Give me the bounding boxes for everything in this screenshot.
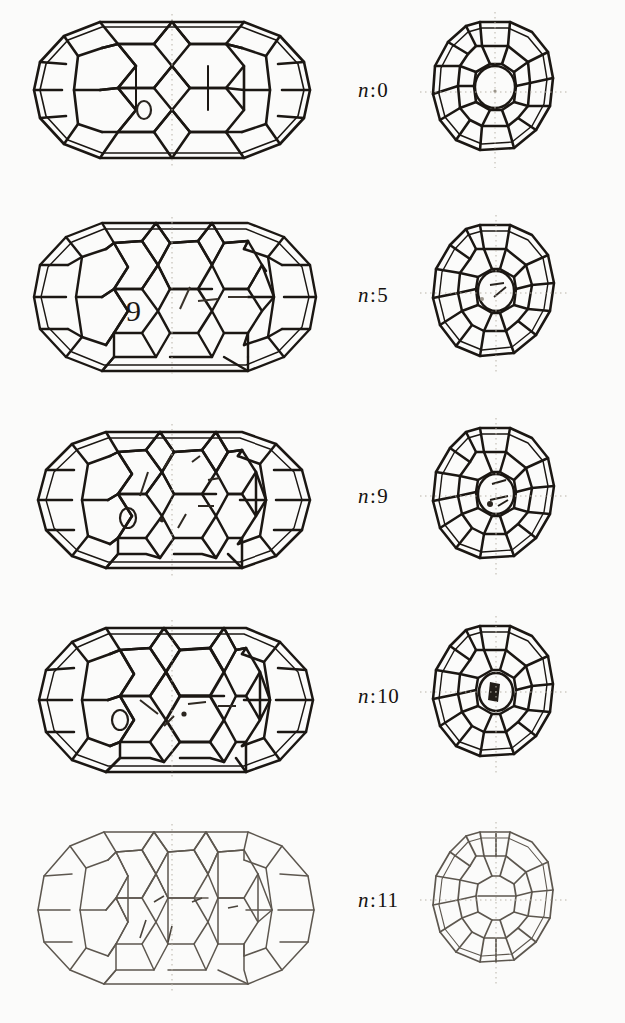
fullerene-series-figure: n:0	[0, 0, 625, 1023]
axial-view-n11	[420, 818, 570, 990]
row-label-variable: n	[358, 684, 369, 708]
row-label-variable: n	[358, 888, 369, 912]
figure-row-n0: n:0	[0, 0, 625, 200]
row-label-variable: n	[358, 484, 369, 508]
figure-row-n9: n:9	[0, 406, 625, 606]
row-label-value: 10	[377, 684, 399, 708]
row-label-n10: n:10	[358, 684, 399, 709]
figure-row-n11: n:11	[0, 810, 625, 1010]
figure-row-n5: 9 n:5	[0, 205, 625, 405]
axial-view-n9	[420, 414, 570, 584]
row-label-value: 0	[377, 78, 388, 102]
axial-view-n10	[420, 614, 570, 784]
row-label-n5: n:5	[358, 283, 388, 308]
side-view-n0	[22, 4, 322, 176]
svg-text:9: 9	[126, 294, 141, 327]
figure-row-n10: n:10	[0, 606, 625, 806]
row-label-value: 11	[377, 888, 398, 912]
side-view-n5: 9	[22, 209, 327, 384]
axial-view-n0	[420, 8, 570, 176]
row-label-n9: n:9	[358, 484, 388, 509]
axial-view-n5	[420, 213, 570, 383]
row-label-variable: n	[358, 283, 369, 307]
side-view-n11	[22, 814, 327, 999]
side-view-n9	[22, 410, 324, 585]
row-label-value: 5	[377, 283, 388, 307]
row-label-variable: n	[358, 78, 369, 102]
row-label-n11: n:11	[358, 888, 399, 913]
side-view-n10	[22, 610, 327, 788]
row-label-value: 9	[377, 484, 388, 508]
row-label-n0: n:0	[358, 78, 388, 103]
